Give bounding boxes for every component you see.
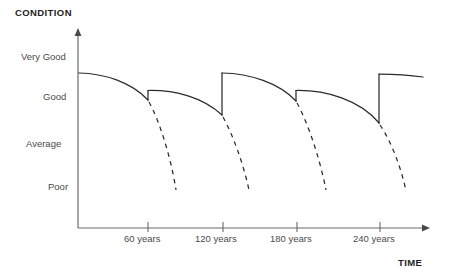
x-axis-title: TIME — [398, 258, 422, 268]
y-tick-label-very-good: Very Good — [21, 52, 66, 62]
dashed-decay-1 — [149, 102, 176, 190]
x-tick-label-240-years: 240 years — [353, 234, 395, 244]
decay-segment-1 — [79, 73, 148, 100]
dashed-decay-3 — [297, 103, 326, 190]
chart-figure: CONDITION Very Good Good Average Poor 60… — [0, 0, 449, 278]
do-nothing-dashed-curves — [149, 102, 406, 191]
decay-segment-5 — [379, 74, 423, 77]
dashed-decay-4 — [380, 125, 406, 191]
x-axis-arrow-icon — [422, 225, 430, 232]
decay-segment-3 — [222, 73, 296, 101]
x-tick-label-120-years: 120 years — [195, 234, 237, 244]
x-axis-ticks — [148, 222, 380, 232]
axis-lines — [75, 28, 430, 231]
x-tick-label-180-years: 180 years — [270, 234, 312, 244]
y-axis-arrow-icon — [75, 28, 82, 36]
x-tick-label-60-years: 60 years — [124, 234, 160, 244]
y-tick-label-good: Good — [43, 92, 66, 102]
decay-segment-2 — [148, 90, 222, 115]
y-tick-label-poor: Poor — [48, 182, 68, 192]
decay-segment-4 — [296, 90, 379, 123]
dashed-decay-2 — [223, 117, 249, 190]
condition-solid-curve — [79, 73, 423, 123]
y-tick-label-average: Average — [26, 139, 61, 149]
y-axis-title: CONDITION — [15, 8, 72, 18]
